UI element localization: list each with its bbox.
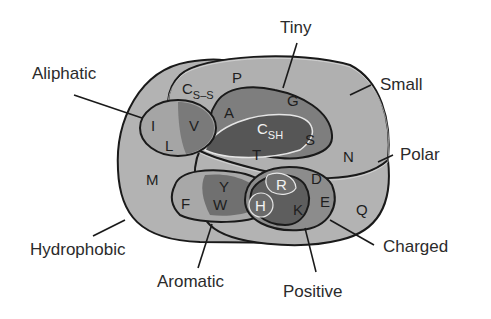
residue-L: L: [165, 137, 173, 154]
residue-K: K: [293, 201, 303, 218]
label-charged: Charged: [383, 237, 448, 256]
residue-S: S: [305, 131, 315, 148]
residue-V: V: [189, 117, 199, 134]
residue-I: I: [151, 117, 155, 134]
residue-H: H: [255, 197, 266, 214]
residue-Q: Q: [356, 201, 368, 218]
label-aromatic: Aromatic: [157, 272, 225, 291]
residue-F: F: [181, 195, 190, 212]
residue-M: M: [146, 171, 159, 188]
residue-W: W: [213, 196, 228, 213]
label-small: Small: [380, 75, 423, 94]
residue-R: R: [276, 176, 287, 193]
label-hydrophobic: Hydrophobic: [30, 240, 126, 259]
residue-D: D: [311, 170, 322, 187]
residue-A: A: [224, 104, 234, 121]
residue-N: N: [343, 148, 354, 165]
residue-E: E: [320, 193, 330, 210]
label-tiny: Tiny: [280, 18, 312, 37]
label-polar: Polar: [400, 145, 440, 164]
residue-Y: Y: [219, 178, 229, 195]
residue-T: T: [252, 146, 261, 163]
venn-diagram: Aliphatic Tiny Small Polar Hydrophobic A…: [0, 0, 491, 319]
label-aliphatic: Aliphatic: [32, 64, 97, 83]
residue-P: P: [232, 69, 242, 86]
residue-G: G: [287, 92, 299, 109]
label-positive: Positive: [283, 282, 343, 301]
